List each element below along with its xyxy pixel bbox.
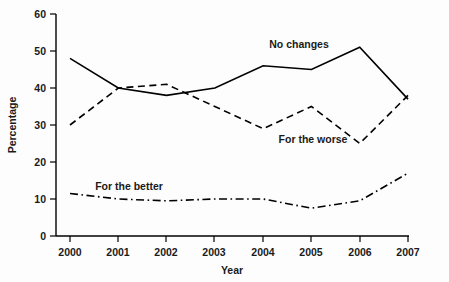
y-tick-label: 20 xyxy=(34,156,46,168)
x-axis-title: Year xyxy=(221,264,243,276)
x-tick-label: 2001 xyxy=(106,246,130,258)
y-axis-tick-labels: 60 50 40 30 20 10 0 xyxy=(34,8,46,242)
series-line-for-the-worse xyxy=(70,84,408,143)
x-tick-label: 2000 xyxy=(58,246,82,258)
x-tick-label: 2007 xyxy=(396,246,420,258)
y-tick-label: 0 xyxy=(40,230,46,242)
line-chart: 60 50 40 30 20 10 0 2000 2001 2002 2003 … xyxy=(0,0,449,282)
y-tick-label: 30 xyxy=(34,119,46,131)
y-tick-label: 40 xyxy=(34,82,46,94)
series-label-for-the-worse: For the worse xyxy=(279,133,348,145)
x-axis-tick-labels: 2000 2001 2002 2003 2004 2005 2006 2007 xyxy=(58,246,420,258)
x-tick-label: 2002 xyxy=(154,246,178,258)
y-tick-label: 60 xyxy=(34,8,46,20)
series-line-no-changes xyxy=(70,47,408,99)
y-tick-label: 10 xyxy=(34,193,46,205)
series-label-no-changes: No changes xyxy=(269,38,329,50)
y-axis-ticks xyxy=(50,14,56,236)
x-tick-label: 2004 xyxy=(251,246,275,258)
chart-container: 60 50 40 30 20 10 0 2000 2001 2002 2003 … xyxy=(0,0,449,282)
x-tick-label: 2006 xyxy=(348,246,372,258)
x-tick-label: 2005 xyxy=(299,246,323,258)
x-axis-ticks xyxy=(70,236,408,242)
y-tick-label: 50 xyxy=(34,45,46,57)
series-label-for-the-better: For the better xyxy=(95,180,163,192)
y-axis-title: Percentage xyxy=(6,97,18,154)
x-tick-label: 2003 xyxy=(202,246,226,258)
